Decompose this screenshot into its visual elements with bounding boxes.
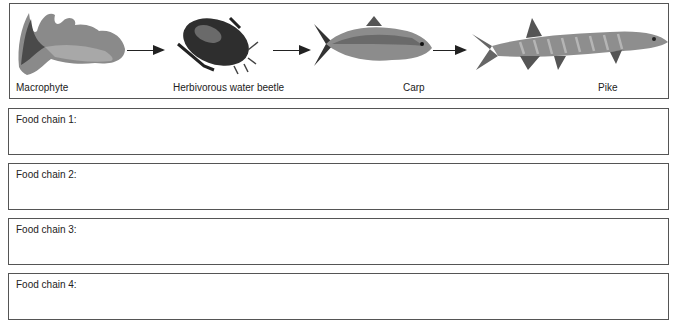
food-chain-4-answer-box[interactable]: Food chain 4: xyxy=(8,273,669,320)
arrow-icon xyxy=(273,50,309,51)
water-beetle-icon xyxy=(174,14,266,76)
food-chain-2-label: Food chain 2: xyxy=(16,169,77,180)
arrow-icon xyxy=(433,50,465,51)
food-chain-1-label: Food chain 1: xyxy=(16,114,77,125)
food-chain-2-answer-box[interactable]: Food chain 2: xyxy=(8,163,669,210)
organism-label-macrophyte: Macrophyte xyxy=(16,82,68,93)
food-chain-4-label: Food chain 4: xyxy=(16,279,77,290)
organism-label-beetle: Herbivorous water beetle xyxy=(173,82,284,93)
food-chain-diagram: Macrophyte Herbivorous water beetle Carp… xyxy=(9,3,669,99)
food-chain-1-answer-box[interactable]: Food chain 1: xyxy=(8,108,669,155)
food-chain-3-answer-box[interactable]: Food chain 3: xyxy=(8,218,669,265)
carp-fish-icon xyxy=(312,16,434,71)
pike-fish-icon xyxy=(470,12,670,74)
food-chain-3-label: Food chain 3: xyxy=(16,224,77,235)
organism-label-pike: Pike xyxy=(598,82,617,93)
macrophyte-plant-icon xyxy=(15,7,127,77)
arrow-icon xyxy=(127,50,163,51)
organism-label-carp: Carp xyxy=(403,82,425,93)
